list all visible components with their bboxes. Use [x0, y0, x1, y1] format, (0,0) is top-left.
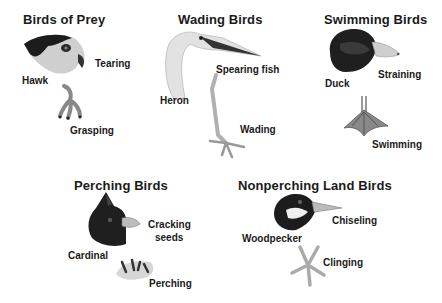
bird-label-woodpecker: Woodpecker	[242, 233, 302, 244]
bird-label-duck: Duck	[325, 78, 349, 89]
bird-label-heron: Heron	[160, 95, 189, 106]
hawk-head-icon	[22, 32, 86, 77]
bird-label-hawk: Hawk	[22, 75, 48, 86]
group-title-wading-birds: Wading Birds	[178, 12, 263, 27]
group-title-perching-birds: Perching Birds	[74, 178, 168, 193]
duck-head-icon	[326, 28, 402, 74]
foot-label-perching: Perching	[149, 278, 192, 289]
cardinal-head-icon	[86, 192, 142, 248]
beak-label-cracking: Cracking	[148, 219, 191, 230]
foot-label-grasping: Grasping	[70, 125, 114, 136]
group-title-birds-of-prey: Birds of Prey	[23, 12, 105, 27]
bird-label-cardinal: Cardinal	[68, 250, 108, 261]
beak-label-spearing-fish: Spearing fish	[216, 64, 279, 75]
woodpecker-clinging-foot-icon	[290, 245, 326, 287]
group-title-nonperching-land-birds: Nonperching Land Birds	[238, 178, 392, 193]
beak-label-chiseling: Chiseling	[332, 215, 377, 226]
foot-label-swimming: Swimming	[372, 139, 422, 150]
beak-label-tearing: Tearing	[95, 58, 130, 69]
beak-label-seeds: seeds	[155, 232, 183, 243]
hawk-talon-icon	[56, 84, 86, 120]
woodpecker-head-icon	[272, 192, 344, 232]
duck-webbed-foot-icon	[342, 96, 390, 138]
foot-label-clinging: Clinging	[323, 257, 363, 268]
group-title-swimming-birds: Swimming Birds	[324, 12, 427, 27]
heron-leg-icon	[208, 75, 253, 160]
foot-label-wading: Wading	[240, 124, 276, 135]
beak-label-straining: Straining	[378, 69, 421, 80]
